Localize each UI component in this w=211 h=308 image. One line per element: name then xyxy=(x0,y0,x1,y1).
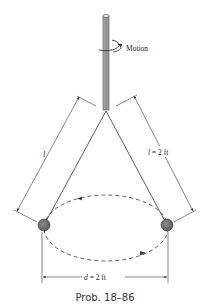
motion-label: Motion xyxy=(126,44,148,53)
distance-label: d = 2 ft xyxy=(84,273,107,282)
left-length-dimension xyxy=(14,96,96,222)
right-length-label: l = 2 ft xyxy=(148,148,169,157)
right-length-dimension xyxy=(116,95,196,222)
figure-caption: Prob. 18–86 xyxy=(75,292,134,303)
right-ball xyxy=(161,219,173,231)
left-ball xyxy=(38,219,50,231)
pendulum-strings xyxy=(44,111,167,225)
rotating-rod xyxy=(103,14,109,110)
rotation-arrow-icon xyxy=(99,40,121,52)
left-length-label: l xyxy=(43,150,46,159)
pendulum-diagram: Motion l l = 2 ft d = 2 ft Prob. 18–86 xyxy=(0,0,211,308)
circular-path xyxy=(44,195,168,261)
